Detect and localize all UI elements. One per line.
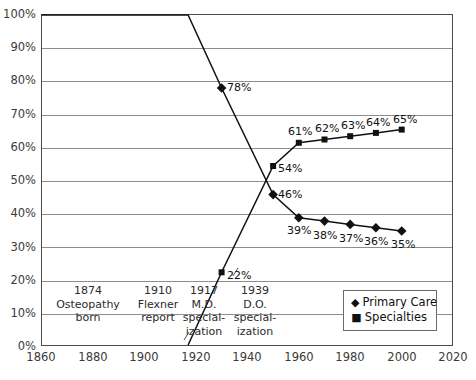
data-label-specialties-1980: 63%	[341, 120, 365, 131]
legend-label: Specialties	[365, 310, 427, 325]
annotation-do-specialization: 1939 D.O. special- ization	[228, 284, 282, 338]
legend: ◆ Primary Care ■ Specialties	[343, 290, 437, 331]
annotation-line2: M.D.	[177, 298, 231, 312]
annotation-year: 1874	[48, 284, 128, 298]
chart-container: 100% 90% 80% 70% 60% 50% 40% 30% 20% 10%…	[0, 0, 476, 380]
annotation-year: 1917	[177, 284, 231, 298]
annotation-line2: Osteopathy	[48, 298, 128, 312]
data-label-specialties-2000: 65%	[393, 114, 417, 125]
legend-item-primary-care: ◆ Primary Care	[351, 295, 427, 310]
data-label-specialties-1930: 22%	[227, 270, 251, 281]
annotation-year: 1939	[228, 284, 282, 298]
data-label-specialties-1950: 54%	[278, 163, 302, 174]
primary-care-markers	[217, 83, 407, 236]
annotation-line2: D.O.	[228, 298, 282, 312]
data-label-specialties-1990: 64%	[366, 117, 390, 128]
data-label-primary-2000: 35%	[391, 239, 415, 250]
data-label-primary-1990: 36%	[364, 236, 388, 247]
data-label-primary-1970: 38%	[313, 230, 337, 241]
annotation-line4: ization	[228, 325, 282, 339]
data-label-primary-1980: 37%	[339, 233, 363, 244]
legend-label: Primary Care	[362, 295, 437, 310]
data-label-primary-1930: 78%	[227, 82, 251, 93]
specialties-markers	[219, 127, 405, 276]
annotation-md-specialization: 1917 M.D. special- ization	[177, 284, 231, 338]
diamond-marker-icon: ◆	[351, 295, 359, 310]
data-label-primary-1960: 39%	[287, 225, 311, 236]
square-marker-icon: ■	[351, 310, 362, 325]
annotation-line4: ization	[177, 325, 231, 339]
annotation-line3: special-	[177, 311, 231, 325]
annotation-osteopathy-born: 1874 Osteopathy born	[48, 284, 128, 325]
data-label-primary-1950: 46%	[278, 189, 302, 200]
annotation-line3: born	[48, 311, 128, 325]
data-label-specialties-1960: 61%	[288, 126, 312, 137]
annotation-line3: special-	[228, 311, 282, 325]
data-label-specialties-1970: 62%	[315, 123, 339, 134]
legend-item-specialties: ■ Specialties	[351, 310, 427, 325]
